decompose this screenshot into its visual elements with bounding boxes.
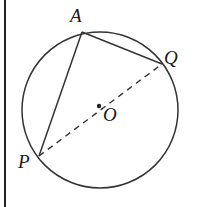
circle-diagram: A Q P O — [0, 0, 197, 207]
segment-ap — [39, 32, 82, 156]
geometry-figure: A Q P O — [0, 0, 197, 207]
diameter-pq — [39, 64, 162, 156]
circle-o — [22, 32, 178, 188]
label-p: P — [17, 151, 30, 172]
label-o: O — [103, 104, 117, 125]
segment-aq — [82, 32, 162, 64]
label-a: A — [68, 5, 82, 26]
label-q: Q — [164, 47, 178, 68]
center-dot — [97, 104, 101, 108]
